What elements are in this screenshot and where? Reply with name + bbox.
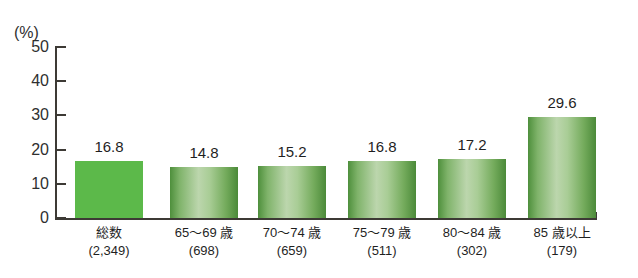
y-axis-tick-label: 20 <box>31 142 49 158</box>
bar-chart: (%) 01020304050 16.814.815.216.817.229.6… <box>0 0 638 278</box>
bar-group[interactable]: 17.2 <box>438 47 506 218</box>
x-axis-baseline <box>55 218 597 220</box>
category-label-count: (2,349) <box>61 242 157 260</box>
y-axis-tick-label: 0 <box>40 210 49 226</box>
category-label: 70〜74 歳(659) <box>244 224 340 259</box>
bar[interactable] <box>438 159 506 218</box>
category-label: 75〜79 歳(511) <box>334 224 430 259</box>
category-label-name: 65〜69 歳 <box>156 224 252 242</box>
bar-value-label: 15.2 <box>258 143 326 160</box>
bar[interactable] <box>170 167 238 218</box>
bar-group[interactable]: 29.6 <box>528 47 596 218</box>
bar-value-label: 29.6 <box>528 94 596 111</box>
bar[interactable] <box>258 166 326 218</box>
y-axis-tick-labels: 01020304050 <box>0 0 49 278</box>
category-label-name: 80〜84 歳 <box>424 224 520 242</box>
category-label-count: (511) <box>334 242 430 260</box>
bar-group[interactable]: 16.8 <box>75 47 143 218</box>
y-axis-tick-label: 10 <box>31 176 49 192</box>
y-axis-tick-label: 50 <box>31 39 49 55</box>
category-label-name: 85 歳以上 <box>514 224 610 242</box>
bar[interactable] <box>75 161 143 218</box>
category-label-name: 70〜74 歳 <box>244 224 340 242</box>
category-label-count: (659) <box>244 242 340 260</box>
bar-group[interactable]: 14.8 <box>170 47 238 218</box>
bar-group[interactable]: 16.8 <box>348 47 416 218</box>
bar[interactable] <box>528 117 596 218</box>
bar-value-label: 17.2 <box>438 136 506 153</box>
category-label: 総数(2,349) <box>61 224 157 259</box>
bar-value-label: 16.8 <box>348 138 416 155</box>
category-label-count: (302) <box>424 242 520 260</box>
category-label: 85 歳以上(179) <box>514 224 610 259</box>
plot-area: 16.814.815.216.817.229.6 <box>55 47 595 218</box>
y-axis-tick-label: 40 <box>31 73 49 89</box>
bar-group[interactable]: 15.2 <box>258 47 326 218</box>
category-label: 65〜69 歳(698) <box>156 224 252 259</box>
category-label-name: 75〜79 歳 <box>334 224 430 242</box>
category-label-count: (179) <box>514 242 610 260</box>
category-label: 80〜84 歳(302) <box>424 224 520 259</box>
bar-value-label: 16.8 <box>75 138 143 155</box>
y-axis-tick-label: 30 <box>31 107 49 123</box>
category-label-count: (698) <box>156 242 252 260</box>
category-label-name: 総数 <box>61 224 157 242</box>
bar-value-label: 14.8 <box>170 144 238 161</box>
bar[interactable] <box>348 161 416 218</box>
